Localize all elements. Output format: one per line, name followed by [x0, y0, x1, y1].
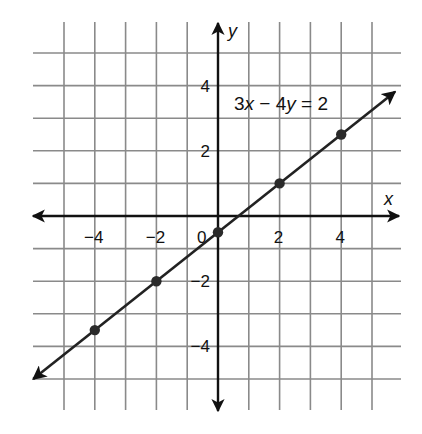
x-axis-label: x — [383, 189, 394, 209]
coordinate-plane: −4−22442−2−40 x y 3x − 4y = 2 — [0, 0, 422, 434]
x-tick-label: −2 — [146, 228, 165, 247]
axes — [33, 23, 399, 411]
data-point — [274, 178, 284, 188]
origin-label: 0 — [197, 228, 206, 247]
equation-term: − 4 — [254, 93, 287, 114]
data-point — [213, 227, 223, 237]
y-tick-label: −2 — [191, 272, 210, 291]
y-tick-label: 2 — [201, 142, 210, 161]
y-tick-label: −4 — [191, 337, 210, 356]
data-point — [336, 129, 346, 139]
equation-label: 3x − 4y = 2 — [234, 93, 328, 114]
equation-term: = 2 — [296, 93, 328, 114]
data-point — [151, 276, 161, 286]
y-axis-label: y — [226, 21, 238, 41]
x-tick-label: −4 — [84, 228, 103, 247]
y-tick-label: 4 — [201, 77, 210, 96]
x-tick-label: 4 — [335, 228, 344, 247]
equation-term: 3 — [234, 93, 245, 114]
x-tick-label: 2 — [274, 228, 283, 247]
data-point — [90, 325, 100, 335]
